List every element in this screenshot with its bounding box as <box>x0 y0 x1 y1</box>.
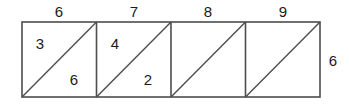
diagonal-square-1 <box>22 22 97 97</box>
inner-label-square-1-lower: 6 <box>70 72 78 87</box>
geometry-figure: 6 7 8 9 6 3 6 4 2 <box>0 0 349 106</box>
diagonal-square-4 <box>246 22 321 97</box>
squares-diagram-svg <box>0 0 349 106</box>
inner-label-square-2-upper: 4 <box>111 36 119 51</box>
top-label-square-2: 7 <box>130 4 138 19</box>
top-label-square-3: 8 <box>204 4 212 19</box>
inner-label-square-2-lower: 2 <box>144 72 152 87</box>
top-label-square-1: 6 <box>55 4 63 19</box>
diagonal-square-2 <box>97 22 172 97</box>
right-side-label: 6 <box>329 53 337 68</box>
diagonal-square-3 <box>171 22 246 97</box>
vertical-dividers <box>97 22 246 97</box>
top-label-square-4: 9 <box>279 4 287 19</box>
inner-label-square-1-upper: 3 <box>36 36 44 51</box>
